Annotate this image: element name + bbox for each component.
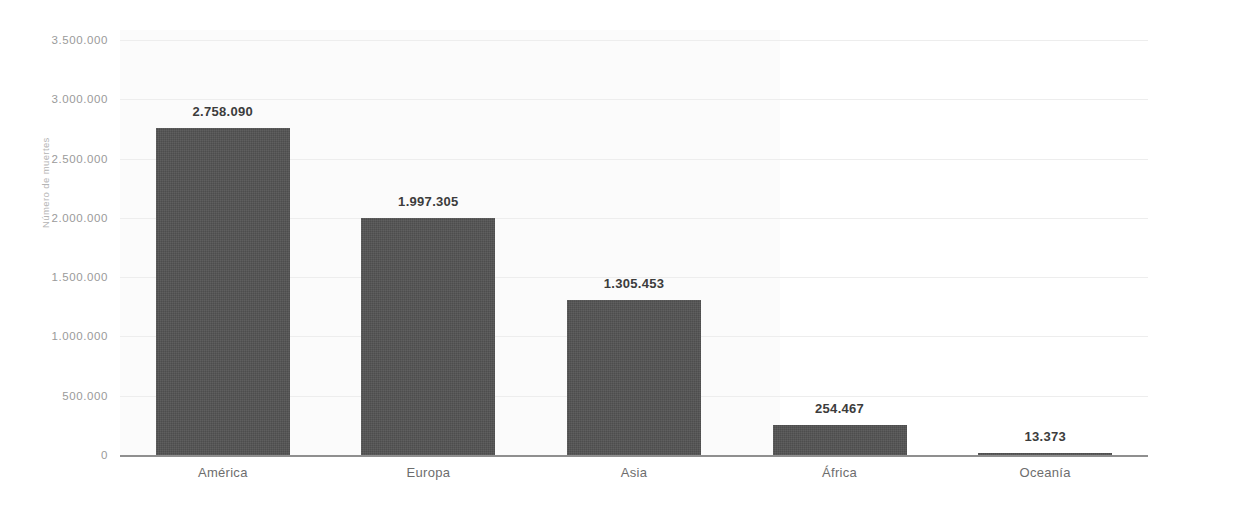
bar-value-label: 13.373 (945, 429, 1145, 444)
x-axis-category-label: América (123, 465, 323, 480)
bar (773, 425, 907, 455)
bar-value-label: 254.467 (740, 401, 940, 416)
plot-area (120, 30, 1148, 455)
x-axis-line (120, 455, 1148, 457)
y-axis-tick-label: 1.000.000 (8, 330, 108, 342)
bar (567, 300, 701, 455)
gridline (120, 99, 1148, 100)
chart-figure: 3.500.0003.000.0002.500.0002.000.0001.50… (0, 0, 1258, 518)
y-axis-tick-label: 3.500.000 (8, 34, 108, 46)
x-axis-category-label: África (740, 465, 940, 480)
gridline (120, 40, 1148, 41)
y-axis-tick-label: 0 (8, 449, 108, 461)
y-axis-title: Número de muertes (40, 137, 51, 228)
y-axis-tick-label: 2.500.000 (8, 153, 108, 165)
x-axis-category-label: Asia (534, 465, 734, 480)
bar-value-label: 1.997.305 (328, 194, 528, 209)
bar (361, 218, 495, 455)
x-axis-category-label: Europa (328, 465, 528, 480)
bar-value-label: 1.305.453 (534, 276, 734, 291)
x-axis-category-label: Oceanía (945, 465, 1145, 480)
bar-value-label: 2.758.090 (123, 104, 323, 119)
y-axis-tick-label: 3.000.000 (8, 93, 108, 105)
y-axis-tick-label: 500.000 (8, 390, 108, 402)
bar (156, 128, 290, 455)
y-axis-tick-label: 1.500.000 (8, 271, 108, 283)
y-axis-tick-label: 2.000.000 (8, 212, 108, 224)
